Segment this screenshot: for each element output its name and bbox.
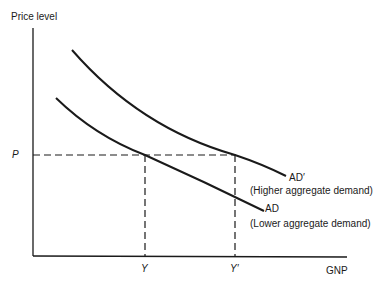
y-marker-label: Y [141,264,148,274]
y-prime-marker-label: Y′ [230,264,239,274]
diagram-canvas [0,0,377,293]
y-axis-label: Price level [11,12,57,22]
ad-label: AD [265,204,279,214]
price-marker-label: P [12,150,19,160]
ad-prime-description: (Higher aggregate demand) [250,186,373,196]
ad-prime-label: AD′ [289,173,305,183]
ad-description: (Lower aggregate demand) [250,219,371,229]
x-axis-label: GNP [326,266,348,276]
ad-prime-curve [72,50,286,176]
x-axis [33,256,347,257]
